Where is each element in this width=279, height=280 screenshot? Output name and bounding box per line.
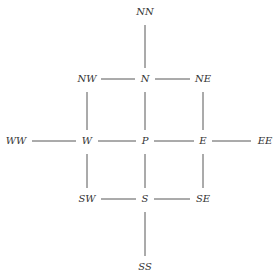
node-label-ne: NE	[194, 73, 212, 84]
node-label-sw: SW	[78, 193, 96, 204]
node-label-s: S	[142, 193, 149, 204]
node-label-ee: EE	[257, 135, 273, 146]
node-label-n: N	[140, 73, 151, 84]
node-label-ww: WW	[6, 135, 27, 146]
node-label-nn: NN	[135, 6, 155, 17]
node-label-p: P	[141, 135, 149, 146]
node-label-nw: NW	[76, 73, 97, 84]
node-label-se: SE	[196, 193, 211, 204]
node-label-e: E	[198, 135, 207, 146]
stencil-diagram: NNNWNNEWWWPEEESWSSESS	[0, 0, 279, 280]
node-label-w: W	[82, 135, 93, 146]
nodes-layer: NNNWNNEWWWPEEESWSSESS	[6, 6, 273, 272]
node-label-ss: SS	[138, 261, 152, 272]
